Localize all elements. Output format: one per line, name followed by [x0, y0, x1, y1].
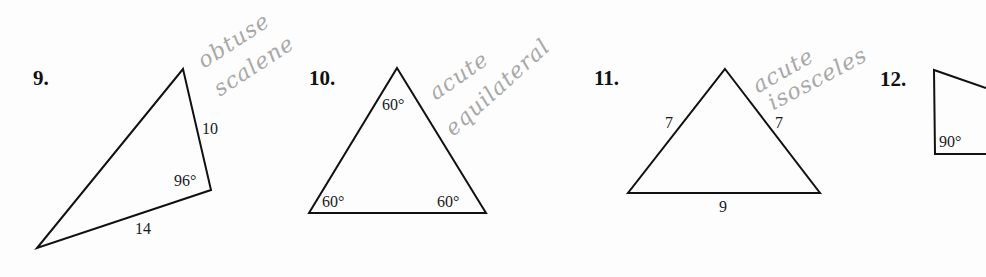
problem-number-11: 11. [594, 68, 619, 89]
angle-label-96: 96° [174, 173, 196, 189]
problem-number-10: 10. [309, 68, 335, 89]
side-label-10: 10 [202, 121, 218, 137]
angle-label-bottom-left: 60° [322, 194, 344, 210]
problem-number-12: 12. [880, 69, 906, 90]
worksheet-page: 9. 10 96° 14 obtuse scalene 10. 60° 60° … [0, 0, 986, 277]
side-label-left-7: 7 [665, 115, 673, 131]
angle-label-bottom-right: 60° [437, 194, 459, 210]
angle-label-90: 90° [939, 134, 961, 150]
angle-label-top: 60° [382, 97, 404, 113]
side-label-14: 14 [135, 221, 151, 237]
side-label-9: 9 [719, 199, 727, 215]
triangle-9 [37, 69, 211, 248]
side-label-right-7: 7 [775, 115, 783, 131]
problem-number-9: 9. [33, 68, 49, 89]
